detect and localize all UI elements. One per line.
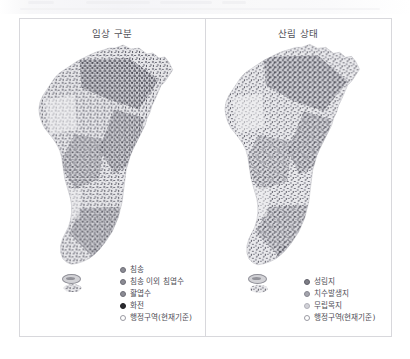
legend-item-label: 행정구역(현재기준) — [314, 314, 376, 322]
legend-item: 무립목지 — [304, 300, 376, 312]
legend-item-label: 침송 — [130, 266, 144, 274]
legend-item: 치수발생지 — [304, 288, 376, 300]
legend-item-label: 활엽수 — [130, 290, 151, 298]
legend-item: 침송 이외 침엽수 — [120, 276, 192, 288]
legend-swatch-icon — [304, 291, 310, 297]
legend-swatch-icon — [304, 315, 310, 321]
legend-item: 행정구역(현재기준) — [120, 312, 192, 324]
jeju-island-left — [62, 274, 81, 284]
legend-item-label: 성림지 — [314, 278, 335, 286]
legend-item-label: 침송 이외 침엽수 — [130, 278, 184, 286]
legend-item: 화전 — [120, 300, 192, 312]
panel-title-forest-type: 임상 구분 — [20, 26, 205, 40]
legend-swatch-icon — [120, 315, 126, 321]
legend-item-label: 무립목지 — [314, 302, 342, 310]
legend-item: 행정구역(현재기준) — [304, 312, 376, 324]
legend-swatch-icon — [120, 291, 126, 297]
forest-type-panel: 임상 구분 — [20, 19, 206, 336]
forest-condition-panel: 산림 상태 — [206, 19, 392, 336]
legend-swatch-icon — [120, 267, 126, 273]
legend-swatch-icon — [304, 279, 310, 285]
legend-swatch-icon — [304, 303, 310, 309]
legend-item: 활엽수 — [120, 288, 192, 300]
legend-item-label: 화전 — [130, 302, 144, 310]
scan-top-artifact — [0, 0, 410, 14]
legend-forest-type: 침송 침송 이외 침엽수 활엽수 화전 행정구역(현재기준) — [120, 264, 192, 324]
panel-title-forest-condition: 산림 상태 — [206, 26, 392, 40]
figure-frame: 임상 구분 — [19, 18, 392, 337]
legend-item: 성림지 — [304, 276, 376, 288]
legend-item-label: 치수발생지 — [314, 290, 349, 298]
legend-item-label: 행정구역(현재기준) — [130, 314, 192, 322]
jeju-island-right — [248, 274, 267, 284]
legend-forest-condition: 성림지 치수발생지 무립목지 행정구역(현재기준) — [304, 276, 376, 324]
legend-item: 침송 — [120, 264, 192, 276]
legend-swatch-icon — [120, 279, 126, 285]
legend-swatch-icon — [120, 303, 126, 309]
